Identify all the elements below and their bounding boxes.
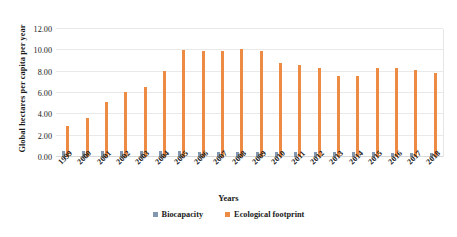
bar-ecological-footprint-2005 — [182, 50, 185, 157]
y-axis-tick-label: 0.00 — [38, 153, 52, 162]
bar-groups — [56, 29, 443, 157]
bar-group — [327, 29, 346, 157]
y-axis-tick-label: 6.00 — [38, 89, 52, 98]
bar-ecological-footprint-2007 — [221, 51, 224, 157]
bar-group — [133, 29, 152, 157]
bar-ecological-footprint-2008 — [240, 49, 243, 157]
bar-ecological-footprint-2011 — [298, 65, 301, 157]
plot-area — [56, 29, 444, 157]
bar-group — [75, 29, 94, 157]
legend-swatch-icon — [153, 212, 158, 217]
bar-ecological-footprint-2015 — [376, 68, 379, 157]
x-axis-tick-cell: 2016 — [386, 158, 405, 192]
bar-ecological-footprint-2002 — [124, 92, 127, 157]
x-axis-tick-cell: 2006 — [192, 158, 211, 192]
bar-group — [346, 29, 365, 157]
bar-group — [230, 29, 249, 157]
bar-group — [172, 29, 191, 157]
legend-swatch-icon — [225, 212, 230, 217]
x-axis-tick-cell: 2013 — [328, 158, 347, 192]
bar-group — [424, 29, 443, 157]
bar-ecological-footprint-2009 — [260, 51, 263, 157]
chart-container: Global hectares per capita per year 0.00… — [0, 0, 457, 237]
x-axis-tick-cell: 2014 — [347, 158, 366, 192]
bar-group — [288, 29, 307, 157]
x-axis-tick-cell: 2015 — [367, 158, 386, 192]
y-axis-tick-label: 2.00 — [38, 131, 52, 140]
x-axis-tick-cell: 2011 — [289, 158, 308, 192]
bar-group — [211, 29, 230, 157]
x-axis-tick-cell: 2000 — [75, 158, 94, 192]
bar-group — [366, 29, 385, 157]
bar-ecological-footprint-2012 — [318, 68, 321, 157]
bar-group — [269, 29, 288, 157]
x-axis-tick-labels: 1999200020012002200320042005200620072008… — [56, 158, 444, 192]
bar-ecological-footprint-2018 — [434, 73, 437, 157]
x-axis-tick-cell: 2003 — [134, 158, 153, 192]
y-axis-tick-labels: 0.002.004.006.008.0010.0012.00 — [18, 29, 52, 157]
y-axis-tick-label: 10.00 — [34, 46, 52, 55]
x-axis-tick-cell: 2010 — [269, 158, 288, 192]
x-axis-tick-cell: 2004 — [153, 158, 172, 192]
bar-ecological-footprint-2006 — [202, 51, 205, 157]
y-axis-tick-label: 8.00 — [38, 67, 52, 76]
y-axis-tick-label: 4.00 — [38, 110, 52, 119]
bar-group — [307, 29, 326, 157]
legend-item[interactable]: Biocapacity — [153, 210, 203, 219]
chart-legend: BiocapacityEcological footprint — [0, 210, 457, 219]
x-axis-tick-cell: 2017 — [405, 158, 424, 192]
bar-group — [153, 29, 172, 157]
bar-group — [249, 29, 268, 157]
bar-group — [95, 29, 114, 157]
y-axis-tick-label: 12.00 — [34, 25, 52, 34]
bar-ecological-footprint-2003 — [144, 87, 147, 157]
x-axis-tick-cell: 2005 — [172, 158, 191, 192]
legend-label: Ecological footprint — [234, 210, 304, 219]
bar-ecological-footprint-2010 — [279, 63, 282, 157]
legend-label: Biocapacity — [162, 210, 203, 219]
x-axis-tick-cell: 1999 — [56, 158, 75, 192]
bar-ecological-footprint-2014 — [356, 76, 359, 157]
x-axis-tick-cell: 2012 — [308, 158, 327, 192]
bar-group — [191, 29, 210, 157]
legend-item[interactable]: Ecological footprint — [225, 210, 304, 219]
x-axis-title: Years — [0, 193, 457, 203]
bar-group — [114, 29, 133, 157]
x-axis-tick-cell: 2009 — [250, 158, 269, 192]
bar-group — [404, 29, 423, 157]
x-axis-tick-cell: 2001 — [95, 158, 114, 192]
bar-group — [56, 29, 75, 157]
x-axis-tick-cell: 2002 — [114, 158, 133, 192]
x-axis-tick-cell: 2018 — [425, 158, 444, 192]
x-axis-tick-cell: 2007 — [211, 158, 230, 192]
bar-group — [385, 29, 404, 157]
bar-ecological-footprint-2017 — [414, 70, 417, 157]
bar-ecological-footprint-2004 — [163, 71, 166, 157]
bar-ecological-footprint-2013 — [337, 76, 340, 157]
bar-ecological-footprint-2016 — [395, 68, 398, 157]
x-axis-tick-cell: 2008 — [231, 158, 250, 192]
